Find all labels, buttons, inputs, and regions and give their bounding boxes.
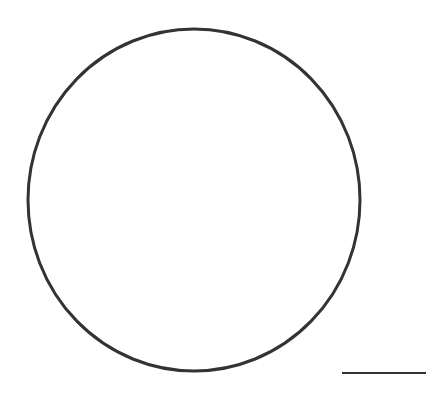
diagram-canvas bbox=[0, 0, 447, 396]
background bbox=[0, 0, 447, 396]
